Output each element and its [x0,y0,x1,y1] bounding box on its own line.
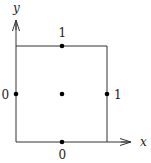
point-center [60,92,65,97]
point-left-midpoint [14,92,19,97]
y-axis-label: y [12,1,20,15]
right-edge-label: 1 [114,88,122,102]
point-top-midpoint [60,44,65,49]
left-edge-label: 0 [2,88,10,102]
y-axis-arrowhead [13,20,20,31]
x-axis-arrowhead [120,139,131,146]
top-edge-label: 1 [59,26,67,40]
point-bottom-midpoint [60,140,65,145]
diagram-canvas: y x 1 0 1 0 [0,0,151,163]
x-axis-label: x [140,135,147,149]
point-right-midpoint [105,92,110,97]
bottom-edge-label: 0 [59,148,67,162]
